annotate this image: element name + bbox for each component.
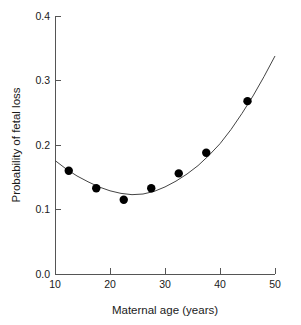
y-tick-label-0.4: 0.4 xyxy=(35,10,50,22)
y-tick-label-0.1: 0.1 xyxy=(35,203,50,215)
data-point xyxy=(175,169,183,177)
data-point-group xyxy=(65,97,252,204)
x-tick-label-30: 30 xyxy=(159,278,171,290)
x-axis-title: Maternal age (years) xyxy=(112,304,218,316)
y-tick-label-0.3: 0.3 xyxy=(35,74,50,86)
data-point xyxy=(65,167,73,175)
data-point xyxy=(120,196,128,204)
fitted-curve xyxy=(55,56,275,195)
data-point xyxy=(202,149,210,157)
data-point xyxy=(147,184,155,192)
x-tick-label-40: 40 xyxy=(214,278,226,290)
chart-figure: 0.4 0.3 0.2 0.1 0.0 10 20 30 40 50 Mater… xyxy=(0,0,301,325)
y-axis-title: Probability of fetal loss xyxy=(10,87,22,202)
y-tick-label-0.2: 0.2 xyxy=(35,139,50,151)
data-point xyxy=(243,97,251,105)
y-tick-label-0.0: 0.0 xyxy=(35,268,50,280)
data-point xyxy=(92,184,100,192)
x-tick-label-50: 50 xyxy=(269,278,281,290)
x-tick-label-20: 20 xyxy=(104,278,116,290)
fetal-loss-scatter-plot: 0.4 0.3 0.2 0.1 0.0 10 20 30 40 50 Mater… xyxy=(0,0,301,325)
x-tick-label-10: 10 xyxy=(49,278,61,290)
